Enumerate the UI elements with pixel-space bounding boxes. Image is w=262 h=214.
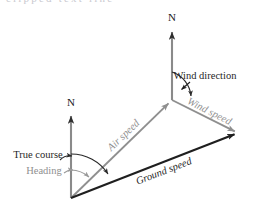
vector-diagram-canvas: N N Air speed Wind speed Ground speed Tr… [0,0,262,214]
ground-speed-vector: Ground speed [71,134,235,198]
heading-label: Heading [26,165,62,176]
lower-north-axis: N [67,96,75,198]
wind-speed-vector: Wind speed [172,95,235,131]
upper-north-axis: N [168,11,176,100]
lower-north-axis-label: N [67,96,75,108]
air-speed-vector: Air speed [71,103,169,198]
upper-north-axis-label: N [168,11,176,23]
wind-direction-angle: Wind direction [172,70,237,96]
true-course-label: True course [13,149,63,160]
heading-angle: Heading [26,165,89,177]
vector-diagram-figure: clipped text line N [0,0,262,214]
heading-arc [71,170,89,177]
ground-speed-vector-line [71,134,235,198]
wind-direction-label: Wind direction [174,70,238,81]
air-speed-vector-line [71,103,169,198]
